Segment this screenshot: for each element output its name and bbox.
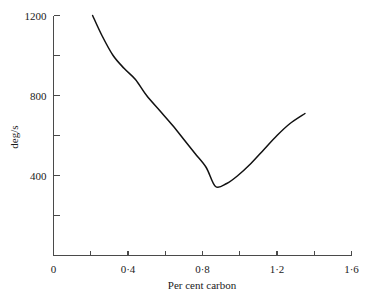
x-tick-label: 0·4	[121, 263, 136, 275]
x-tick-label: 1·6	[344, 263, 359, 275]
x-axis-tick-marks	[91, 251, 352, 256]
x-tick-label: 1·2	[270, 263, 285, 275]
y-axis-tick-labels: 4008001200	[25, 10, 48, 182]
x-tick-label: 0·8	[195, 263, 210, 275]
axis-lines	[54, 16, 352, 256]
axes-group	[54, 16, 352, 256]
y-tick-label: 400	[30, 170, 47, 182]
x-axis-title: Per cent carbon	[168, 279, 237, 291]
data-series-group	[93, 16, 305, 188]
data-curve-deg-s	[93, 16, 305, 188]
x-tick-label: 0	[51, 263, 57, 275]
chart-figure: 00·40·81·21·6 4008001200 Per cent carbon…	[0, 0, 378, 296]
y-tick-label: 800	[30, 90, 47, 102]
y-axis-tick-marks	[54, 16, 60, 216]
y-axis-title: deg/s	[8, 125, 20, 148]
y-tick-label: 1200	[25, 10, 48, 22]
x-axis-tick-labels: 00·40·81·21·6	[51, 263, 360, 275]
chart-canvas: 00·40·81·21·6 4008001200 Per cent carbon…	[0, 0, 378, 296]
